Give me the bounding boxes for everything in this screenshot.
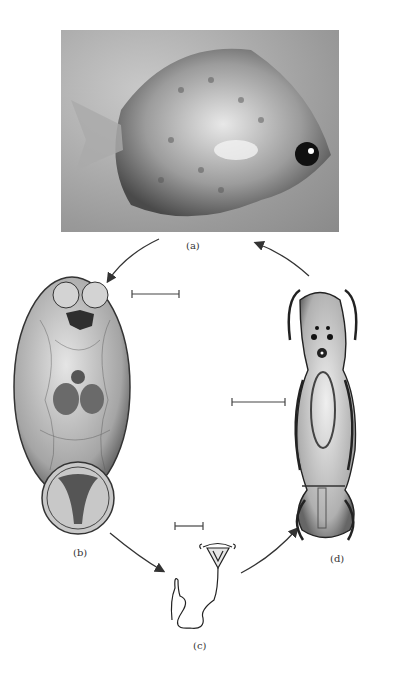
diagram-canvas	[0, 0, 405, 673]
stage-b-drawing	[14, 277, 130, 534]
scale-bar-c	[175, 522, 203, 530]
stage-d-drawing	[289, 290, 357, 540]
scale-bar-d	[232, 398, 285, 406]
arrow-c-to-d	[241, 529, 297, 573]
arrow-b-to-c	[110, 533, 163, 571]
scale-bar-b	[132, 290, 179, 298]
arrow-a-to-b	[108, 239, 159, 281]
stage-c-drawing	[171, 544, 235, 629]
arrow-d-to-a	[256, 243, 309, 276]
